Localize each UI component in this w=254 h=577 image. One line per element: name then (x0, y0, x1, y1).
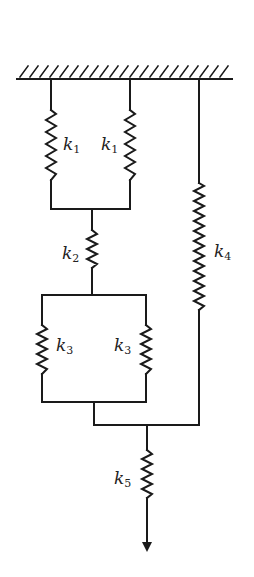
spring-k1-left (46, 79, 56, 209)
spring-k3-right (141, 295, 151, 402)
spring-k3-left (37, 295, 47, 402)
label-k3-left: k3 (56, 337, 73, 356)
label-k5: k5 (114, 470, 131, 489)
spring-diagram (0, 0, 254, 577)
label-k2: k2 (62, 245, 79, 264)
spring-k1-right (125, 79, 135, 209)
spring-k2 (87, 209, 97, 295)
load-arrow-icon (142, 542, 152, 552)
spring-k5 (142, 425, 152, 543)
label-k1-left: k1 (63, 136, 80, 155)
label-k3-right: k3 (114, 337, 131, 356)
spring-k4 (194, 79, 204, 425)
label-k4: k4 (214, 243, 231, 262)
label-k1-right: k1 (101, 136, 118, 155)
fixed-support (17, 66, 232, 79)
